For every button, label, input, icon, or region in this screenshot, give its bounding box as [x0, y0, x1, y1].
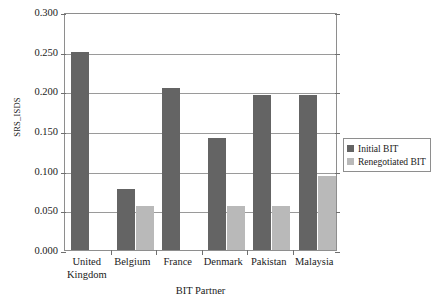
- y-tick-label: 0.250: [16, 48, 58, 58]
- bar-group: [111, 14, 157, 250]
- bar: [136, 206, 154, 250]
- x-tick-label: Denmark: [201, 256, 247, 269]
- legend-swatch-icon: [347, 158, 354, 165]
- x-tick-label: France: [155, 256, 201, 269]
- bar-group: [156, 14, 202, 250]
- bar: [253, 95, 271, 250]
- y-axis-ticks: 0.0000.0500.1000.1500.2000.2500.300: [16, 0, 58, 302]
- bar-group: [293, 14, 339, 250]
- x-tick-label: Malaysia: [292, 256, 338, 269]
- legend-item: Renegotiated BIT: [347, 155, 426, 168]
- bar-group: [65, 14, 111, 250]
- y-tick-label: 0.100: [16, 167, 58, 177]
- bar: [318, 176, 336, 250]
- y-tick-label: 0.150: [16, 127, 58, 137]
- y-tick-label: 0.050: [16, 206, 58, 216]
- bar: [208, 138, 226, 250]
- bar: [227, 206, 245, 250]
- chart-legend: Initial BITRenegotiated BIT: [343, 138, 431, 172]
- bar: [117, 189, 135, 250]
- x-tick-label: United Kingdom: [64, 256, 110, 281]
- bar: [71, 52, 89, 250]
- x-tick-label: Pakistan: [246, 256, 292, 269]
- x-tick-mark: [156, 250, 157, 255]
- y-tick-label: 0.300: [16, 8, 58, 18]
- x-tick-label: Belgium: [110, 256, 156, 269]
- legend-label: Initial BIT: [358, 144, 398, 154]
- bar-group: [202, 14, 248, 250]
- x-tick-mark: [202, 250, 203, 255]
- legend-label: Renegotiated BIT: [358, 157, 426, 167]
- legend-item: Initial BIT: [347, 142, 426, 155]
- x-tick-mark: [247, 250, 248, 255]
- y-tick-mark: [335, 252, 340, 253]
- x-tick-mark: [111, 250, 112, 255]
- bar: [299, 95, 317, 250]
- bar-chart: SRS_ISDS 0.0000.0500.1000.1500.2000.2500…: [0, 0, 444, 302]
- y-tick-label: 0.200: [16, 87, 58, 97]
- bar: [272, 206, 290, 250]
- bar: [162, 88, 180, 250]
- bar-group: [247, 14, 293, 250]
- plot-area: [64, 13, 337, 251]
- y-tick-mark: [61, 252, 66, 253]
- x-axis-title: BIT Partner: [64, 285, 337, 296]
- legend-swatch-icon: [347, 145, 354, 152]
- y-tick-label: 0.000: [16, 246, 58, 256]
- x-tick-mark: [293, 250, 294, 255]
